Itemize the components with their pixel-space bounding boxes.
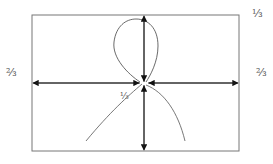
- diagram-canvas: [0, 0, 273, 164]
- loop-curve: [114, 19, 158, 82]
- label-left: ⅔: [6, 67, 17, 78]
- label-center: ⅓: [120, 92, 129, 101]
- left-curve: [86, 84, 142, 141]
- label-top-right: ⅓: [252, 8, 263, 19]
- right-curve: [146, 85, 185, 141]
- label-right: ⅔: [256, 67, 267, 78]
